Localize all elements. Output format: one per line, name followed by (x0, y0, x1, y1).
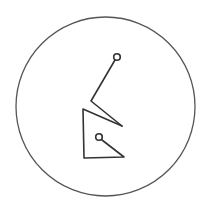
upper-zigzag (91, 60, 122, 126)
lower-node (96, 134, 103, 141)
encircled-glyph (0, 0, 207, 218)
outer-circle (16, 17, 195, 196)
triangle (83, 109, 124, 158)
glyph-icon (83, 54, 124, 158)
